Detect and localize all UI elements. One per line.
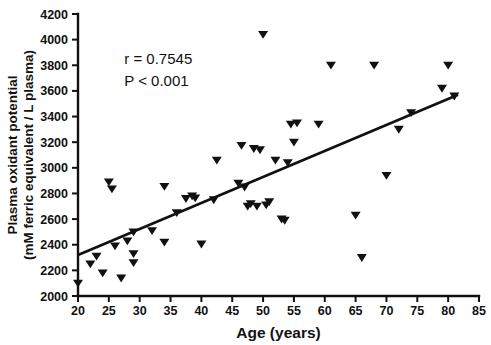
data-point: [437, 85, 447, 93]
data-point: [255, 146, 265, 154]
x-tick-label-20: 20: [71, 304, 85, 318]
x-tick-label-80: 80: [441, 304, 455, 318]
data-point: [236, 142, 246, 150]
data-point: [381, 172, 391, 180]
x-tick-label-85: 85: [472, 304, 486, 318]
x-tick-label-25: 25: [102, 304, 116, 318]
y-tick-label-3600: 3600: [40, 84, 68, 98]
annotation-group: r = 0.7545P < 0.001: [124, 50, 192, 89]
data-point: [159, 183, 169, 191]
data-point: [357, 254, 367, 262]
y-tick-label-3200: 3200: [40, 136, 68, 150]
y-tick-label-2400: 2400: [40, 238, 68, 252]
data-point: [196, 241, 206, 249]
annotation-p-value: P < 0.001: [124, 72, 188, 89]
data-point: [147, 227, 157, 235]
data-point: [122, 237, 132, 245]
y-tick-label-4200: 4200: [40, 8, 68, 22]
data-point: [212, 157, 222, 165]
y-tick-label-2000: 2000: [40, 290, 68, 304]
x-tick-label-40: 40: [194, 304, 208, 318]
y-tick-label-2200: 2200: [40, 264, 68, 278]
x-tick-label-30: 30: [133, 304, 147, 318]
data-point: [270, 157, 280, 165]
x-tick-label-65: 65: [349, 304, 363, 318]
data-point: [73, 280, 83, 288]
y-axis-title-line-2: (mM ferric equivalent / L plasma): [21, 50, 36, 260]
data-point: [289, 139, 299, 147]
x-tick-label-50: 50: [256, 304, 270, 318]
x-tick-label-70: 70: [380, 304, 394, 318]
x-tick-label-45: 45: [225, 304, 239, 318]
data-point: [351, 212, 361, 220]
regression-line: [78, 95, 458, 255]
data-point: [181, 195, 191, 203]
annotation-correlation: r = 0.7545: [124, 50, 192, 67]
data-point: [129, 250, 139, 258]
x-tick-label-55: 55: [287, 304, 301, 318]
data-point: [98, 269, 108, 277]
y-tick-label-3000: 3000: [40, 161, 68, 175]
data-point: [252, 203, 262, 211]
y-axis-title-line-1: Plasma oxidant potential: [5, 75, 20, 234]
data-point: [314, 121, 324, 129]
x-tick-label-35: 35: [164, 304, 178, 318]
data-point: [326, 62, 336, 70]
plot-canvas: 2000220024002600280030003200340036003800…: [0, 0, 491, 345]
y-tick-label-2800: 2800: [40, 187, 68, 201]
data-point: [443, 62, 453, 70]
y-tick-label-4000: 4000: [40, 33, 68, 47]
data-point: [104, 178, 114, 186]
y-tick-label-2600: 2600: [40, 213, 68, 227]
data-point: [159, 239, 169, 247]
x-tick-label-75: 75: [410, 304, 424, 318]
data-point: [107, 185, 117, 193]
y-tick-label-3400: 3400: [40, 110, 68, 124]
y-tick-label-3800: 3800: [40, 59, 68, 73]
x-axis-ticks: 2025303540455055606570758085: [71, 296, 486, 318]
data-point-group: [73, 31, 459, 288]
data-point: [369, 62, 379, 70]
x-axis-title: Age (years): [236, 324, 320, 341]
data-point: [129, 259, 139, 267]
x-tick-label-60: 60: [318, 304, 332, 318]
y-axis-ticks: 2000220024002600280030003200340036003800…: [40, 8, 78, 304]
data-point: [92, 253, 102, 261]
data-point: [258, 31, 268, 39]
data-point: [116, 275, 126, 283]
data-point: [85, 260, 95, 268]
data-point: [394, 126, 404, 134]
scatter-plot-figure: 2000220024002600280030003200340036003800…: [0, 0, 491, 345]
data-point: [110, 243, 120, 251]
